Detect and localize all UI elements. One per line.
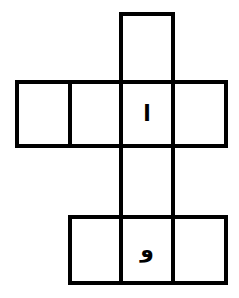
grid-cell-row4-col4[interactable] (171, 215, 228, 285)
cell-letter: ا (143, 103, 151, 125)
grid-cell-row2-col4[interactable] (171, 80, 228, 148)
grid-cell-top[interactable] (119, 12, 175, 84)
grid-cell-row4-col2[interactable] (68, 215, 123, 285)
cell-letter: و (140, 239, 154, 261)
grid-cell-connector[interactable] (119, 144, 175, 219)
grid-cell-row2-col1[interactable] (15, 80, 72, 148)
grid-cell-row2-col2[interactable] (68, 80, 123, 148)
grid-cell-row4-col3[interactable]: و (119, 215, 175, 285)
grid-cell-row2-col3[interactable]: ا (119, 80, 175, 148)
